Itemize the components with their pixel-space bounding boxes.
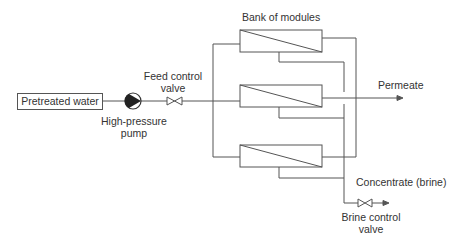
pump-label-line1: High-pressure — [98, 115, 170, 127]
pretreated-water-box: Pretreated water — [17, 93, 103, 110]
pump-label: High-pressure pump — [98, 115, 170, 139]
brine-valve-icon — [358, 199, 372, 207]
feed-valve-icon — [167, 97, 182, 105]
brine-valve-label: Brine control valve — [334, 211, 408, 235]
concentrate-arrow — [383, 201, 389, 206]
concentrate-label: Concentrate (brine) — [356, 176, 446, 188]
flow-diagram — [0, 0, 462, 247]
permeate-arrow — [397, 96, 403, 101]
bank-of-modules-label: Bank of modules — [242, 11, 320, 23]
brine-valve-label-line1: Brine control — [334, 211, 408, 223]
brine-valve-label-line2: valve — [334, 223, 408, 235]
pump-label-line2: pump — [98, 127, 170, 139]
feed-valve-label: Feed control valve — [140, 70, 206, 94]
permeate-label: Permeate — [378, 79, 424, 91]
feed-valve-label-line2: valve — [140, 82, 206, 94]
feed-valve-label-line1: Feed control — [140, 70, 206, 82]
pump-icon — [125, 93, 141, 109]
